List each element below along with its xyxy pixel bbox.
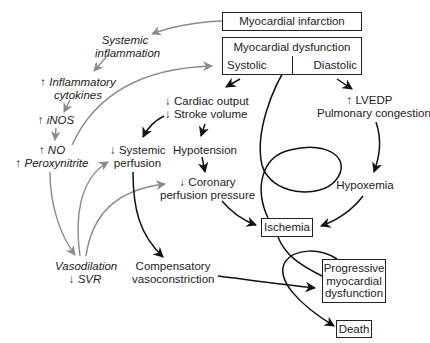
compensatory-vasoconstriction-label: Compensatory vasoconstriction (132, 260, 214, 286)
progressive-line-3: dysfunction (325, 287, 383, 300)
arrow-hypotension-to-coronary (202, 157, 205, 172)
systemic-inflammation-label: Systemic inflammation (95, 34, 155, 60)
hypoxemia-label: Hypoxemia (335, 179, 395, 192)
arrow-mi-to-inflammation (152, 21, 222, 34)
coronary-perfusion-label: ↓ Coronary perfusion pressure (160, 176, 255, 202)
ischemia-box: Ischemia (261, 218, 313, 237)
arrow-cardiac-output-to-systemic-perfusion (143, 116, 164, 137)
progressive-line-1: Progressive (324, 262, 385, 275)
progressive-dysfunction-box: Progressive myocardial dysfunction (322, 259, 386, 303)
arrow-systolic-to-cardiac-output (226, 79, 240, 87)
arrow-coronary-to-ischemia (222, 201, 256, 225)
inflammatory-cytokines-label: ↑ Inflammatory cytokines (38, 76, 118, 102)
arrow-hypoxemia-to-ischemia (321, 196, 363, 226)
systemic-perfusion-label: ↓ Systemic perfusion (110, 144, 165, 170)
arrow-diastolic-to-lvedp (337, 79, 352, 89)
arrow-stroke-volume-to-hypotension (201, 124, 205, 136)
progressive-line-2: myocardial (326, 275, 382, 288)
vasodilation-svr-label: Vasodilation ↓ SVR (55, 260, 115, 286)
diastolic-cell: Diastolic (293, 56, 361, 74)
systolic-cell: Systolic (223, 56, 293, 74)
arrow-peroxynitrite-to-vasodilation (50, 172, 75, 255)
cardiac-output-label: ↓ Cardiac output ↓ Stroke volume (165, 95, 245, 121)
arrow-inos-to-no (55, 128, 56, 140)
inos-label: ↑ iNOS (36, 114, 76, 127)
no-peroxynitrite-label: ↑ NO ↑ Peroxynitrite (14, 144, 90, 170)
myocardial-infarction-box: Myocardial infarction (222, 12, 362, 31)
arrow-pulmonary-to-hypoxemia (374, 122, 380, 172)
loop-dysfunction-to-ischemia (260, 58, 341, 218)
arrow-ischemia-to-progressive (278, 237, 322, 276)
lvedp-label: ↑ LVEDP Pulmonary congestion (317, 94, 422, 120)
dysfunction-type-row: Systolic Diastolic (222, 56, 362, 75)
death-box: Death (336, 320, 372, 338)
arrow-vasodilation-to-systemic-perfusion (78, 162, 108, 256)
myocardial-dysfunction-box: Myocardial dysfunction (222, 37, 362, 57)
arrow-compensatory-to-progressive (218, 276, 315, 288)
hypotension-label: Hypotension (173, 144, 233, 157)
